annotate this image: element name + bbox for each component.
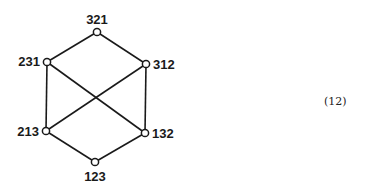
equation-number: (12) bbox=[324, 95, 347, 108]
edge-321-312 bbox=[97, 32, 146, 64]
node-label-231: 231 bbox=[18, 54, 40, 69]
node-label-312: 312 bbox=[153, 57, 175, 72]
edge-132-123 bbox=[95, 133, 145, 162]
edge-321-231 bbox=[47, 32, 97, 62]
node-132-icon bbox=[141, 129, 148, 136]
node-label-321: 321 bbox=[86, 12, 108, 27]
edge-312-132 bbox=[145, 64, 146, 133]
node-321-icon bbox=[93, 28, 100, 35]
node-312-icon bbox=[142, 60, 149, 67]
node-123-icon bbox=[91, 158, 98, 165]
node-label-132: 132 bbox=[152, 126, 174, 141]
edge-231-213 bbox=[46, 62, 47, 131]
node-label-213: 213 bbox=[17, 124, 39, 139]
node-213-icon bbox=[42, 127, 49, 134]
edge-213-123 bbox=[46, 131, 95, 162]
node-231-icon bbox=[43, 58, 50, 65]
edges bbox=[46, 32, 146, 162]
edge-312-213 bbox=[46, 64, 146, 131]
node-label-123: 123 bbox=[84, 169, 106, 184]
